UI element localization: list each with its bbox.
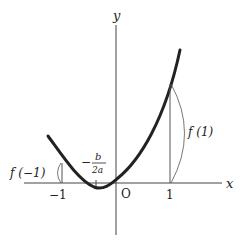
tick-label-one: 1 [166,188,174,202]
tick-label-neg-one: −1 [49,188,67,202]
parabola-curve [48,50,180,188]
y-axis-label: y [112,8,121,23]
f-one-brace [171,84,185,183]
origin-label: O [121,187,131,201]
vertex-label-denominator: 2a [91,165,103,175]
vertex-label-numerator: b [95,151,101,162]
f-neg-one-label: f (−1) [9,166,46,180]
f-one-label: f (1) [187,125,214,139]
x-axis-label: x [226,176,234,191]
vertex-label-minus: − [81,155,91,169]
f-neg-one-brace [58,163,62,183]
parabola-diagram: y x O −1 1 − b 2a f (−1) f (1) [0,0,245,244]
